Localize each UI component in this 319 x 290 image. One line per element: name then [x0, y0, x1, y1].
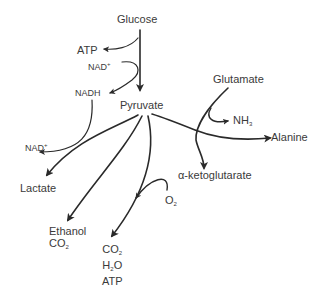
node-nh3: NH3 — [233, 114, 252, 130]
node-alanine: Alanine — [271, 131, 308, 143]
node-nadh: NADH — [75, 87, 101, 99]
arrow-pyruvate-alanine — [152, 114, 270, 139]
ethanol-co2-label: CO2 — [49, 237, 86, 253]
node-pyruvate: Pyruvate — [120, 99, 163, 111]
atp-bottom-label: ATP — [102, 275, 123, 287]
ethanol-label: Ethanol — [49, 225, 86, 237]
node-nad-plus-top: NAD+ — [88, 58, 111, 73]
arrow-glutamate-akg — [196, 88, 228, 168]
node-ethanol-co2: Ethanol CO2 — [49, 225, 86, 253]
node-alpha-ketoglutarate: α-ketoglutarate — [178, 169, 252, 181]
arrow-to-atp — [104, 38, 138, 49]
node-nad-plus-left: NAD+ — [25, 139, 48, 154]
node-glucose: Glucose — [117, 13, 157, 25]
node-co2-h2o-atp: CO2 H2O ATP — [102, 243, 123, 287]
h2o-label: H2O — [102, 259, 123, 275]
arrow-glutamate-nh3 — [209, 108, 228, 122]
arrow-nad-to-nadh — [110, 62, 138, 93]
node-atp-top: ATP — [77, 44, 98, 56]
node-glutamate: Glutamate — [213, 73, 264, 85]
co2-label: CO2 — [102, 243, 123, 259]
node-o2: O2 — [165, 194, 177, 210]
node-lactate: Lactate — [20, 182, 56, 194]
